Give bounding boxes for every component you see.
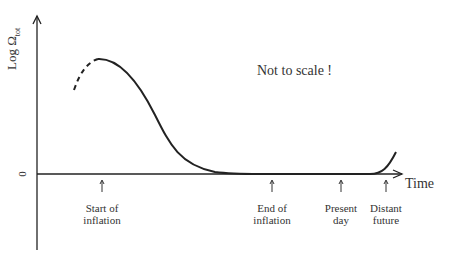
y-axis-label: Log Ωtot bbox=[4, 28, 22, 70]
marker-arrows bbox=[100, 180, 388, 192]
marker-line2: future bbox=[361, 214, 411, 226]
marker-line2: day bbox=[316, 214, 366, 226]
omega-curve bbox=[98, 59, 396, 174]
curve-dashed-segment bbox=[74, 59, 98, 90]
not-to-scale-note: Not to scale ! bbox=[257, 63, 332, 79]
marker-end-of-inflation: End of inflation bbox=[242, 202, 302, 226]
x-axis-label: Time bbox=[405, 176, 434, 192]
marker-line1: Distant bbox=[361, 202, 411, 214]
marker-line2: inflation bbox=[72, 214, 132, 226]
marker-distant-future: Distant future bbox=[361, 202, 411, 226]
marker-line1: End of bbox=[242, 202, 302, 214]
marker-start-of-inflation: Start of inflation bbox=[72, 202, 132, 226]
zero-tick-label: 0 bbox=[16, 171, 28, 177]
marker-line1: Start of bbox=[72, 202, 132, 214]
marker-line2: inflation bbox=[242, 214, 302, 226]
marker-present-day: Present day bbox=[316, 202, 366, 226]
marker-line1: Present bbox=[316, 202, 366, 214]
